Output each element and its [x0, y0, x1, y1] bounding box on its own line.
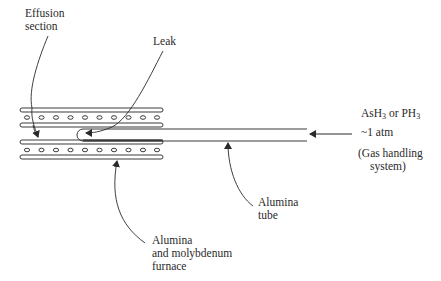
label-gas-source: AsH3 or PH3 ~1 atm (Gas handling system) [358, 107, 423, 173]
gas-species: AsH3 or PH3 [361, 107, 423, 120]
gas-pressure: ~1 atm [361, 126, 423, 139]
lower-heater-holes [24, 148, 159, 152]
label-alumina-tube: Alumina tube [258, 196, 298, 222]
furnace-leader [115, 161, 145, 243]
alumina-tube-leader [228, 143, 253, 206]
alumina-tube-line1: Alumina [258, 196, 298, 209]
leak-text: Leak [153, 35, 176, 48]
effusion-section-line2: section [25, 20, 64, 33]
upper-furnace-wall [20, 108, 163, 127]
effusion-cell-diagram: Effusion section Leak AsH3 or PH3 ~1 atm… [0, 0, 441, 281]
phosphine-prefix: or PH [386, 107, 416, 119]
effusion-section-leader [31, 36, 48, 137]
upper-heater-holes [24, 116, 159, 120]
furnace-line2: and molybdenum [152, 247, 232, 260]
gas-handling-line2: system) [370, 160, 423, 173]
label-leak: Leak [153, 35, 176, 48]
arsine-prefix: AsH [361, 107, 382, 119]
furnace-line1: Alumina [152, 234, 232, 247]
phosphine-subscript: 3 [416, 112, 420, 121]
alumina-tube [77, 129, 307, 141]
lower-furnace-wall [20, 140, 163, 159]
alumina-tube-line2: tube [258, 209, 298, 222]
label-effusion-section: Effusion section [25, 7, 64, 33]
furnace-line3: furnace [152, 260, 232, 273]
gas-handling-line1: (Gas handling [358, 147, 423, 160]
leak-leader [86, 51, 163, 133]
effusion-section-line1: Effusion [25, 7, 64, 20]
label-furnace: Alumina and molybdenum furnace [152, 234, 232, 273]
